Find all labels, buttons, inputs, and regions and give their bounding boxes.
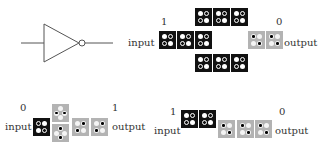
gray-tile-vertical [52, 124, 69, 142]
output-value: 1 [112, 103, 118, 113]
black-tile [33, 118, 50, 136]
black-tile [195, 8, 212, 26]
not-gate-icon [0, 0, 130, 80]
input-value: 1 [161, 17, 167, 27]
output-value: 0 [279, 107, 285, 117]
black-tile [177, 31, 194, 49]
black-tile [159, 31, 176, 49]
black-tile [231, 54, 248, 72]
gray-tile [72, 118, 89, 136]
gray-tile [218, 120, 235, 138]
input-label: input [154, 126, 181, 136]
output-value: 0 [276, 17, 282, 27]
output-label: output [284, 38, 317, 48]
output-label: output [275, 126, 308, 136]
black-tile [213, 8, 230, 26]
gray-tile [91, 118, 108, 136]
output-label: output [112, 122, 145, 132]
black-tile [195, 31, 212, 49]
input-label: input [128, 38, 155, 48]
black-tile [181, 110, 198, 128]
black-tile [199, 110, 216, 128]
input-label: input [5, 122, 32, 132]
black-tile [213, 54, 230, 72]
input-value: 1 [170, 107, 176, 117]
gray-tile [266, 31, 283, 49]
input-value: 0 [20, 103, 26, 113]
black-tile [195, 54, 212, 72]
gray-tile [237, 120, 254, 138]
gray-tile-vertical [52, 104, 69, 122]
gray-tile [255, 120, 272, 138]
gray-tile [248, 31, 265, 49]
black-tile [231, 8, 248, 26]
